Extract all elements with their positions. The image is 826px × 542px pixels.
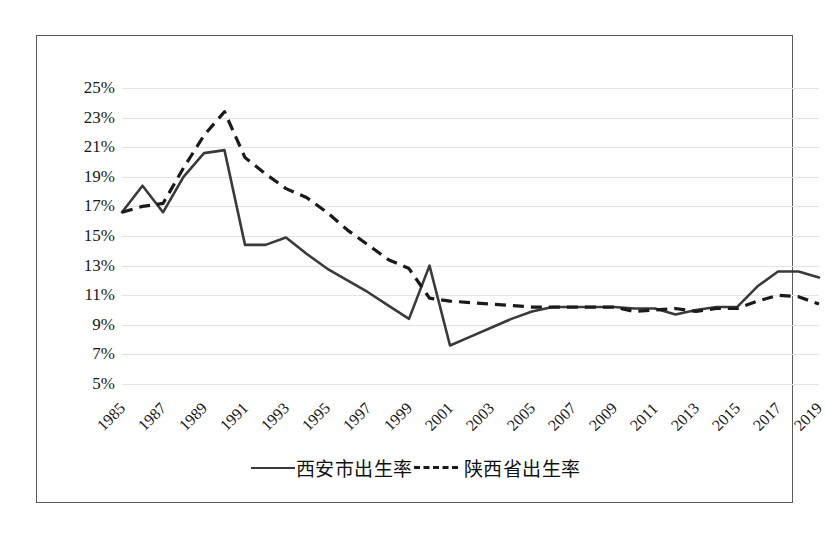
y-axis-tick-label: 13% [84,256,115,276]
x-axis-tick-label: 2019 [791,399,826,434]
gridline [122,384,819,385]
x-axis-tick-label: 2013 [668,399,703,434]
plot-area: 25%23%21%19%17%15%13%11%9%7%5% [122,88,819,384]
legend-item-xian: 西安市出生率 [251,454,413,481]
legend-item-shaanxi: 陕西省出生率 [413,454,581,481]
y-axis-tick-label: 15% [84,226,115,246]
x-axis-tick-label: 1987 [135,399,170,434]
legend-label-xian: 西安市出生率 [296,454,413,481]
chart-legend: 西安市出生率 陕西省出生率 [37,454,794,481]
y-axis-tick-label: 5% [92,374,115,394]
x-axis-tick-label: 1999 [381,399,416,434]
series-line-xian [122,150,819,345]
y-axis-tick-label: 11% [84,285,115,305]
x-axis-labels: 1985198719891991199319951997199920012003… [122,388,819,448]
x-axis-tick-label: 2001 [422,399,457,434]
x-axis-tick-label: 2003 [463,399,498,434]
x-axis-tick-label: 2011 [627,400,662,435]
x-axis-tick-label: 1989 [176,399,211,434]
x-axis-tick-label: 2015 [709,399,744,434]
series-line-shaanxi [122,112,819,312]
x-axis-tick-label: 1997 [340,399,375,434]
chart-frame: 25%23%21%19%17%15%13%11%9%7%5% 198519871… [36,35,793,503]
y-axis-tick-label: 19% [84,167,115,187]
x-axis-tick-label: 2007 [545,399,580,434]
x-axis-tick-label: 1993 [258,399,293,434]
x-axis-tick-label: 2005 [504,399,539,434]
line-chart-svg [122,88,819,384]
y-axis-tick-label: 21% [84,137,115,157]
x-axis-tick-label: 1995 [299,399,334,434]
x-axis-tick-label: 1991 [217,399,252,434]
y-axis-tick-label: 17% [84,196,115,216]
y-axis-tick-label: 23% [84,108,115,128]
legend-label-shaanxi: 陕西省出生率 [464,454,581,481]
legend-dashed-line-icon [414,466,458,469]
y-axis-tick-label: 9% [92,315,115,335]
series-layer [122,88,819,384]
x-axis-tick-label: 2009 [586,399,621,434]
y-axis-tick-label: 25% [84,78,115,98]
x-axis-tick-label: 1985 [94,399,129,434]
legend-solid-line-icon [251,467,295,469]
x-axis-tick-label: 2017 [750,399,785,434]
y-axis-tick-label: 7% [92,344,115,364]
